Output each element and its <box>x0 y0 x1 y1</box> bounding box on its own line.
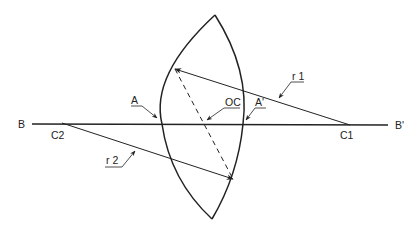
lens-right-surface <box>212 15 244 219</box>
label-radius-2: r 2 <box>106 154 118 166</box>
leader-oc-arrow <box>207 108 224 120</box>
label-optical-center: OC <box>225 96 241 108</box>
label-radius-1: r 1 <box>292 70 304 82</box>
radius-2-line <box>62 123 233 179</box>
label-vertex-a-prime: A' <box>255 96 264 108</box>
optical-axis <box>32 124 388 125</box>
label-axis-b: B <box>18 118 25 130</box>
label-center-c1: C1 <box>340 129 354 141</box>
lens-diagram: A OC A' r 1 r 2 B B' C2 C1 <box>0 0 419 233</box>
leader-r1-arrow <box>279 82 291 98</box>
label-axis-b-prime: B' <box>395 119 404 131</box>
leader-a-arrow <box>142 106 157 118</box>
lens-left-surface <box>160 15 215 219</box>
leader-a-prime-arrow <box>246 108 255 120</box>
label-center-c2: C2 <box>51 129 65 141</box>
label-vertex-a: A <box>131 94 138 106</box>
leader-r2-arrow <box>122 151 135 167</box>
